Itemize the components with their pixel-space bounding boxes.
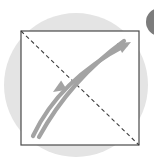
diagram-svg <box>0 0 154 162</box>
diagram-canvas: Lorenz curve diagram <box>0 0 154 162</box>
accent-circle-clipped <box>146 8 154 36</box>
